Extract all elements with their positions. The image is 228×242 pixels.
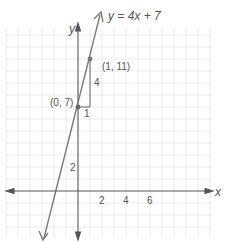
x-tick-2: 2	[99, 195, 105, 206]
coordinate-graph: y = 4x + 7 y x (1, 11) (0, 7) 4 1 2 4 6 …	[0, 0, 228, 242]
y-axis	[76, 23, 81, 240]
x-axis	[6, 189, 213, 194]
x-axis-left-arrow-icon	[6, 189, 14, 194]
y-axis-down-arrow-icon	[76, 232, 81, 240]
grid	[6, 28, 212, 238]
y-axis-up-arrow-icon	[76, 23, 81, 31]
run-label: 1	[84, 108, 90, 119]
x-axis-label: x	[214, 185, 222, 199]
rise-label: 4	[94, 77, 100, 88]
point-b-label: (1, 11)	[102, 61, 130, 72]
line-bottom-arrow-icon	[39, 231, 48, 240]
x-tick-4: 4	[123, 195, 129, 206]
point-1-11	[88, 57, 93, 62]
point-0-7	[76, 105, 81, 110]
x-tick-6: 6	[147, 195, 153, 206]
y-tick-2: 2	[70, 162, 76, 173]
y-axis-label: y	[68, 22, 76, 36]
function-line	[39, 12, 103, 240]
point-a-label: (0, 7)	[50, 97, 73, 108]
equation-label: y = 4x + 7	[107, 9, 162, 23]
x-axis-right-arrow-icon	[205, 189, 213, 194]
